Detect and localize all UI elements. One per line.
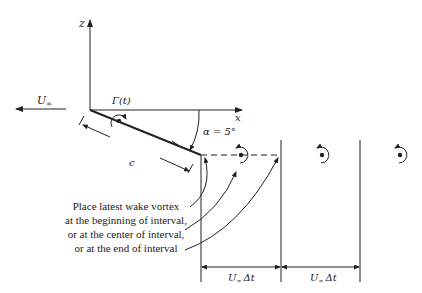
z-axis-label: z [78, 17, 85, 30]
flat-plate-airfoil [90, 110, 201, 155]
interval-label-2: U∞Δt [310, 272, 338, 284]
wake-vortex-icon [395, 147, 407, 163]
wake-vortex-diagram: z x U∞ Γ(t) α = 5° c [0, 0, 422, 293]
z-axis: z [78, 17, 90, 110]
freestream-arrow: U∞ [16, 94, 66, 109]
svg-text:at the beginning of interval,: at the beginning of interval, [65, 214, 187, 226]
bound-vortex-icon [111, 115, 126, 127]
x-axis-label: x [235, 112, 241, 123]
x-axis: x [90, 110, 242, 123]
angle-label: α = 5° [203, 126, 236, 137]
circulation-label: Γ(t) [111, 95, 131, 106]
interval-dimension-1: U∞Δt [202, 267, 280, 284]
svg-text:or at the end of interval: or at the end of interval [75, 242, 178, 254]
angle-of-attack: α = 5° [190, 110, 236, 150]
svg-text:or at the center of interval,: or at the center of interval, [68, 228, 185, 240]
chord-label: c [129, 157, 135, 168]
svg-text:Place latest wake vortex: Place latest wake vortex [73, 200, 180, 212]
wake-vortex-icon [317, 147, 329, 163]
leader-arrows [185, 158, 278, 250]
interval-dimension-2: U∞Δt [282, 267, 359, 284]
annotation-text: Place latest wake vortex at the beginnin… [65, 200, 187, 254]
freestream-label: U∞ [37, 94, 52, 108]
interval-label-1: U∞Δt [228, 272, 256, 284]
